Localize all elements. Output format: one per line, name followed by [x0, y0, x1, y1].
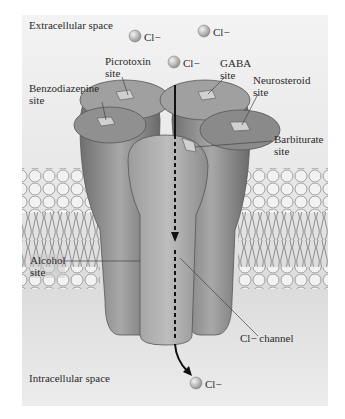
gaba-site-label: GABA site	[220, 57, 251, 81]
intracellular-label: Intracellular space	[29, 372, 110, 384]
chloride-ion	[198, 25, 210, 37]
extracellular-label: Extracellular space	[29, 19, 113, 31]
ion-label: Cl−	[183, 57, 200, 69]
chloride-channel-label: Cl− channel	[240, 332, 294, 344]
chloride-ion	[168, 56, 180, 68]
chloride-ion	[190, 377, 202, 389]
neurosteroid-site-label: Neurosteroid site	[253, 74, 310, 98]
picrotoxin-site-label: Picrotoxin site	[105, 55, 151, 79]
benzodiazepine-site-label: Benzodiazepine site	[29, 82, 99, 106]
receptor-illustration	[0, 0, 345, 419]
chloride-ion	[129, 30, 141, 42]
barbiturate-site-label: Barbiturate site	[274, 133, 323, 157]
ion-label: Cl−	[205, 378, 222, 390]
membrane-right	[238, 168, 328, 289]
ion-label: Cl−	[144, 31, 161, 43]
ion-label: Cl−	[213, 26, 230, 38]
alcohol-site-label: Alcohol site	[30, 254, 65, 278]
